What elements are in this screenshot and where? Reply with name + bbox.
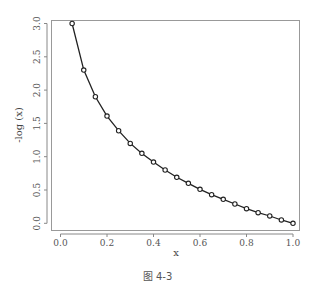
data-point [116, 129, 120, 133]
y-tick-label: 0.5 [32, 183, 42, 198]
x-axis-label: x [173, 247, 179, 258]
data-point [105, 114, 109, 118]
data-point [70, 21, 74, 25]
data-point [256, 210, 260, 214]
y-tick-label: 2.5 [32, 49, 42, 64]
x-tick-label: 0.0 [53, 238, 68, 248]
x-tick-label: 0.6 [193, 238, 208, 248]
figure-caption: 图 4-3 [0, 268, 315, 283]
plot-box [52, 21, 300, 231]
data-point [151, 160, 155, 164]
data-point [221, 197, 225, 201]
data-point [198, 187, 202, 191]
data-point [291, 221, 295, 225]
x-tick-label: 0.8 [239, 238, 254, 248]
y-tick-label: 3.0 [32, 16, 42, 31]
y-tick-label: 2.0 [32, 83, 42, 98]
data-points [70, 21, 295, 225]
data-line [72, 24, 293, 224]
chart: 0.00.20.40.60.81.0 0.00.51.01.52.02.53.0… [0, 0, 315, 296]
y-axis-label: -log (x) [13, 107, 24, 143]
y-axis: 0.00.51.01.52.02.53.0 [32, 16, 47, 230]
data-point [244, 206, 248, 210]
data-point [128, 141, 132, 145]
data-point [209, 192, 213, 196]
x-tick-label: 1.0 [286, 238, 301, 248]
data-point [268, 214, 272, 218]
data-point [233, 202, 237, 206]
data-point [279, 218, 283, 222]
y-tick-label: 0.0 [32, 216, 42, 231]
y-tick-label: 1.0 [32, 149, 42, 164]
data-point [186, 181, 190, 185]
data-point [82, 68, 86, 72]
data-point [175, 175, 179, 179]
data-point [163, 168, 167, 172]
data-point [140, 151, 144, 155]
x-axis: 0.00.20.40.60.81.0 [53, 234, 300, 248]
x-tick-label: 0.2 [100, 238, 114, 248]
x-tick-label: 0.4 [146, 238, 161, 248]
y-tick-label: 1.5 [32, 116, 42, 131]
data-point [93, 95, 97, 99]
